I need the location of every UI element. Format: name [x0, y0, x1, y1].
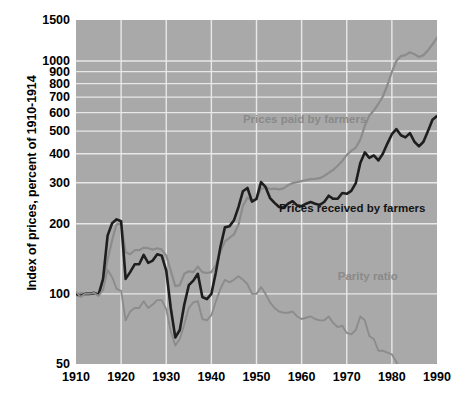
y-axis-tick-labels: 1500100090080070060050040030020010050 [22, 0, 70, 412]
y-axis-tick: 500 [24, 125, 70, 137]
plot-area [76, 20, 437, 364]
x-axis-tick: 1990 [409, 370, 465, 384]
y-axis-tick: 900 [24, 66, 70, 78]
series-label: Parity ratio [338, 270, 398, 282]
y-axis-tick: 100 [24, 288, 70, 300]
y-axis-tick: 800 [24, 78, 70, 90]
chart-root: Index of prices, percent of 1910-1914 15… [0, 0, 472, 412]
y-axis-tick: 400 [24, 148, 70, 160]
series-label: Prices paid by farmers [243, 113, 366, 125]
y-axis-tick: 300 [24, 177, 70, 189]
y-axis-tick: 50 [24, 358, 70, 370]
y-axis-tick: 700 [24, 91, 70, 103]
y-axis-tick: 1500 [24, 14, 70, 26]
series-label: Prices received by farmers [279, 202, 425, 214]
y-axis-tick: 200 [24, 218, 70, 230]
y-axis-tick: 600 [24, 107, 70, 119]
series-canvas [76, 20, 437, 364]
